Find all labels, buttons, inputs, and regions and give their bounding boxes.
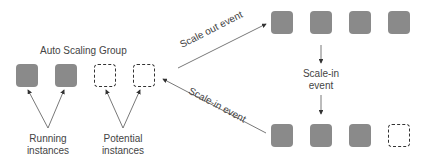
running-instance — [16, 64, 38, 87]
instance-bottom-1 — [271, 124, 293, 147]
potential-instance — [133, 64, 155, 87]
instance-top-1 — [271, 11, 293, 34]
instance-top-4 — [388, 11, 410, 34]
instance-bottom-3 — [349, 124, 371, 147]
running-instance — [55, 64, 77, 87]
auto-scaling-group-label: Auto Scaling Group — [40, 45, 127, 57]
potential-instances-label: Potential instances — [97, 133, 149, 157]
instance-top-2 — [310, 11, 332, 34]
scale-in-vertical-label: Scale-in event — [298, 68, 344, 92]
instance-bottom-2 — [310, 124, 332, 147]
instance-bottom-4-terminated — [388, 124, 410, 147]
potential-instance — [94, 64, 116, 87]
running-instances-label: Running instances — [25, 133, 71, 157]
instance-top-3 — [349, 11, 371, 34]
